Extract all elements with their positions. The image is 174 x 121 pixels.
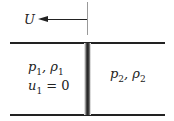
velocity-label: U (24, 13, 35, 26)
velocity-arrow-shaft (46, 19, 87, 20)
region1-velocity-label: u1 = 0 (28, 79, 70, 96)
region1-state-label: p1, ρ1 (28, 60, 64, 77)
shock-position-marker (87, 2, 88, 35)
shock-wave (84, 43, 91, 115)
region2-state-label: p2, ρ2 (110, 67, 146, 84)
velocity-arrow-icon (38, 16, 48, 22)
